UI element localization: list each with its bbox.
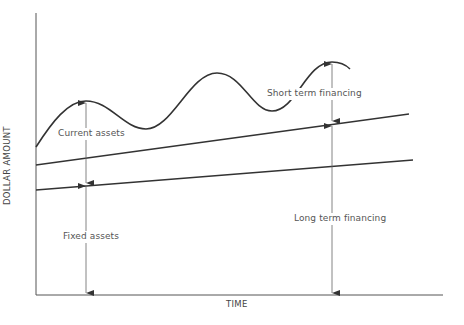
current-assets-label: Current assets [58, 128, 125, 138]
short-term-financing-label: Short term financing [267, 88, 362, 98]
fixed-assets-line [36, 160, 413, 190]
y-axis-label: DOLLAR AMOUNT [2, 126, 12, 205]
fixed-assets-label: Fixed assets [63, 231, 119, 241]
financing-diagram [0, 0, 464, 325]
x-axis-label: TIME [226, 299, 248, 309]
long-term-financing-label: Long term financing [294, 213, 386, 223]
